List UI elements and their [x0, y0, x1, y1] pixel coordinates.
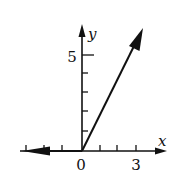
y-axis-label: y — [87, 25, 97, 43]
coordinate-diagram: y 5 x 0 3 — [0, 0, 179, 188]
vector-up-right-arrowhead-icon — [129, 28, 143, 51]
x-tick-label-3: 3 — [131, 156, 141, 174]
origin-label: 0 — [76, 156, 86, 174]
y-tick-label-5: 5 — [67, 48, 77, 66]
vector-left — [22, 147, 82, 156]
vector-up-right — [82, 28, 143, 151]
y-ticks — [82, 55, 94, 131]
y-axis-arrow-icon — [79, 24, 86, 37]
x-axis-label: x — [158, 132, 167, 150]
